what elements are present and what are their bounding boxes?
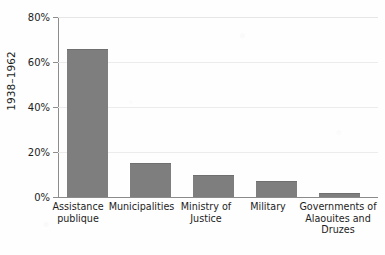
bar-ministry-of-justice [193, 175, 234, 198]
gridline-80 [58, 17, 378, 18]
bar-governments-of-alaouites-and-druzes [319, 193, 360, 198]
bar-military [256, 181, 297, 197]
y-tick-label-20: 20% [4, 147, 50, 158]
bar-chart-figure: 1938–1962 80% 60% 40% 20% 0% Assistance … [0, 0, 385, 255]
y-tick-label-40: 40% [4, 102, 50, 113]
bar-municipalities [130, 163, 171, 197]
bar-assistance-publique [67, 49, 108, 198]
x-axis-line [58, 197, 378, 198]
x-category-label-governments-of-alaouites-and-druzes: Governments of Alaouites and Druzes [293, 201, 383, 236]
y-tick-label-80: 80% [4, 12, 50, 23]
y-tick-label-60: 60% [4, 57, 50, 68]
plot-area [58, 17, 378, 197]
x-category-label-ministry-of-justice: Ministry of Justice [169, 201, 243, 224]
